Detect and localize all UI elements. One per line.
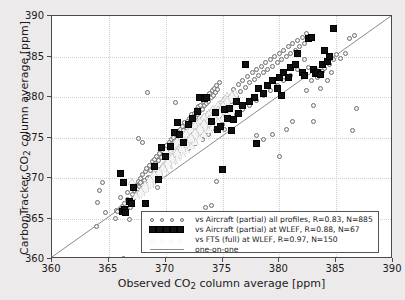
marker-circle <box>343 51 348 56</box>
x-axis-label: Observed CO2 column average [ppm] <box>51 277 392 291</box>
marker-square <box>203 94 210 101</box>
marker-circle <box>270 132 275 137</box>
legend-square-icon <box>156 226 163 233</box>
y-tick <box>47 177 51 178</box>
y-tick <box>47 258 51 259</box>
marker-square <box>294 50 301 57</box>
marker-square <box>230 116 237 123</box>
x-tick <box>51 258 52 262</box>
marker-circle <box>256 73 261 78</box>
marker-square <box>308 34 315 41</box>
marker-square <box>228 127 235 134</box>
marker-circle <box>350 128 355 133</box>
legend-marker-circle-open <box>146 215 190 224</box>
marker-square <box>301 72 308 79</box>
marker-circle <box>136 136 141 141</box>
x-tick-label: 365 <box>98 263 117 274</box>
legend-marker-triangle-open <box>146 235 190 244</box>
y-label-subscript: 2 <box>22 150 32 155</box>
marker-circle <box>94 224 99 229</box>
legend-entry: vs Aircraft (partial) at WLEF, R=0.88, N… <box>146 225 374 235</box>
marker-circle <box>338 56 343 61</box>
marker-circle <box>100 180 105 185</box>
x-tick-label: 380 <box>269 263 288 274</box>
y-axis-label: CarbonTracker CO2 column average [ppm] <box>18 8 32 268</box>
x-tick-label: 370 <box>155 263 174 274</box>
marker-circle <box>277 154 282 159</box>
x-tick <box>335 258 336 262</box>
x-tick <box>165 258 166 262</box>
marker-circle <box>209 203 214 208</box>
marker-circle <box>121 256 126 258</box>
legend-circle-icon <box>180 218 184 222</box>
legend-triangle-icon <box>149 237 157 243</box>
marker-square <box>233 98 240 105</box>
marker-square <box>317 71 324 78</box>
marker-circle <box>329 70 334 75</box>
marker-square <box>122 209 129 216</box>
legend-label: vs Aircraft (partial) at WLEF, R=0.88, N… <box>195 225 360 234</box>
marker-square <box>162 153 169 160</box>
y-tick <box>47 137 51 138</box>
marker-square <box>158 144 165 151</box>
marker-circle <box>103 210 108 215</box>
marker-circle <box>290 119 295 124</box>
marker-circle <box>95 200 100 205</box>
marker-circle <box>263 60 268 65</box>
marker-circle <box>140 140 145 145</box>
marker-circle <box>302 57 307 62</box>
marker-circle <box>243 85 248 90</box>
legend-square-icon <box>170 226 177 233</box>
marker-square <box>242 61 249 68</box>
marker-square <box>142 200 149 207</box>
y-tick <box>47 218 51 219</box>
marker-circle <box>245 74 250 79</box>
legend-line-icon <box>150 249 184 250</box>
marker-circle <box>309 78 314 83</box>
marker-square <box>151 163 158 170</box>
x-tick-label: 375 <box>212 263 231 274</box>
marker-square <box>292 61 299 68</box>
y-tick <box>47 15 51 16</box>
marker-circle <box>240 78 245 83</box>
x-tick-label: 390 <box>382 263 401 274</box>
marker-circle <box>214 179 219 184</box>
legend-marker-line <box>146 245 190 254</box>
marker-circle <box>145 90 150 95</box>
marker-square <box>278 92 285 99</box>
x-tick-label: 360 <box>41 263 60 274</box>
legend-square-icon <box>149 226 156 233</box>
marker-circle <box>97 188 102 193</box>
x-tick <box>108 258 109 262</box>
marker-square <box>185 121 192 128</box>
marker-circle <box>281 48 286 53</box>
legend-entry: vs FTS (full) at WLEF, R=0.97, N=150 <box>146 235 374 245</box>
marker-square <box>180 139 187 146</box>
marker-square <box>285 74 292 81</box>
marker-square <box>167 143 174 150</box>
legend: vs Aircraft (partial) all profiles, R=0.… <box>141 211 379 253</box>
marker-circle <box>279 57 284 62</box>
x-tick <box>278 258 279 262</box>
marker-circle <box>311 103 316 108</box>
marker-square <box>208 118 215 125</box>
marker-circle <box>270 64 275 69</box>
marker-circle <box>236 82 241 87</box>
marker-circle <box>254 133 259 138</box>
marker-circle <box>261 137 266 142</box>
marker-square <box>219 166 226 173</box>
marker-circle <box>217 80 222 85</box>
legend-triangle-icon <box>167 237 175 243</box>
marker-circle <box>173 100 178 105</box>
marker-square <box>330 25 337 32</box>
marker-square <box>212 109 219 116</box>
marker-circle <box>113 216 118 221</box>
marker-circle <box>155 185 160 190</box>
marker-square <box>235 110 242 117</box>
legend-circle-icon <box>170 218 174 222</box>
marker-circle <box>325 78 330 83</box>
marker-circle <box>203 205 208 210</box>
marker-circle <box>125 190 130 195</box>
legend-label: one-on-one <box>195 245 238 254</box>
legend-triangle-icon <box>176 237 184 243</box>
